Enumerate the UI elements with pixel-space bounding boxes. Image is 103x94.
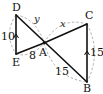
length-cb: 15 <box>90 46 103 59</box>
label-c: C <box>85 9 93 22</box>
length-ab: 15 <box>55 65 69 78</box>
label-e: E <box>12 56 20 69</box>
length-ac: x <box>60 18 66 29</box>
length-da: y <box>33 13 40 24</box>
vertex-a-dot <box>43 42 46 45</box>
length-ea: 8 <box>29 49 36 62</box>
length-de: 10 <box>1 30 15 43</box>
segment-db <box>16 15 87 82</box>
label-b: B <box>83 82 91 94</box>
label-d: D <box>12 1 21 14</box>
label-a: A <box>38 46 48 59</box>
geometry-diagram: D E A C B 10 8 y x 15 15 <box>0 0 103 94</box>
